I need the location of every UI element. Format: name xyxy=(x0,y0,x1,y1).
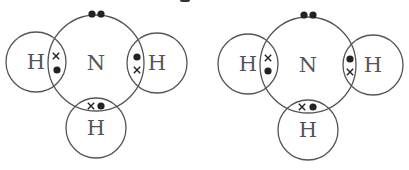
nitrogen-label: N xyxy=(87,51,105,75)
electron-dot-icon xyxy=(346,55,353,62)
electron-cross-icon xyxy=(53,53,59,59)
electron-dot-icon xyxy=(300,11,307,18)
electron-dot-icon xyxy=(97,10,104,17)
diagram-canvas: NHHH NHHH xyxy=(0,0,409,170)
electron-dot-icon xyxy=(53,66,60,73)
cropped-glyph-fragment xyxy=(180,0,190,2)
electron-dot-icon xyxy=(97,102,104,109)
electron-cross-icon xyxy=(265,55,271,61)
hydrogen-label-right: H xyxy=(148,51,166,75)
electron-dot-icon xyxy=(309,11,316,18)
electron-cross-icon xyxy=(347,69,353,75)
electron-cross-icon xyxy=(134,67,140,73)
electron-cross-icon xyxy=(88,103,94,109)
molecule-right: NHHH xyxy=(218,11,403,160)
hydrogen-label-left: H xyxy=(239,52,257,76)
nitrogen-label: N xyxy=(299,53,317,77)
hydrogen-label-left: H xyxy=(27,50,45,74)
electron-dot-icon xyxy=(88,10,95,17)
electron-dot-icon xyxy=(133,53,140,60)
electron-dot-icon xyxy=(264,67,271,74)
ammonia-dot-cross-diagrams: NHHH NHHH xyxy=(0,0,409,170)
electron-dot-icon xyxy=(309,103,316,110)
hydrogen-label-right: H xyxy=(364,53,382,77)
electron-cross-icon xyxy=(299,104,305,110)
hydrogen-label-bottom: H xyxy=(87,116,105,140)
molecule-left: NHHH xyxy=(6,10,187,158)
hydrogen-label-bottom: H xyxy=(299,118,317,142)
